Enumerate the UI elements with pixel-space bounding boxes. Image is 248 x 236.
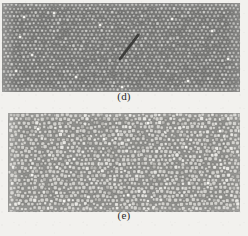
panel-d-cells	[2, 3, 240, 92]
panel-e-image	[8, 113, 240, 212]
panel-d-image	[2, 3, 240, 92]
panel-e-caption: (e)	[0, 209, 248, 221]
panel-d-caption: (d)	[0, 90, 248, 102]
figure-container: (d) (e)	[0, 0, 248, 236]
panel-e-cells	[8, 113, 240, 212]
